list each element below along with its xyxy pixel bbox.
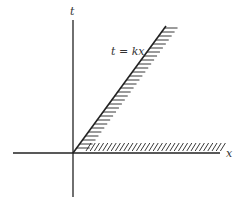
t-axis-label: t xyxy=(70,5,75,18)
x-axis-label: x xyxy=(226,147,233,160)
line-label: t = kx xyxy=(111,45,145,58)
diagram: t x t = kx xyxy=(0,0,242,207)
x-axis-hatching xyxy=(86,143,225,151)
